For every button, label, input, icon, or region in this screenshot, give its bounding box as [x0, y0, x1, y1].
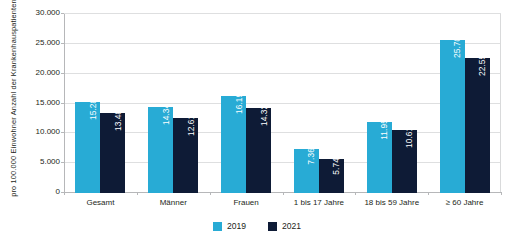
x-axis-label-1-bis-17-jahre: 1 bis 17 Jahre [283, 197, 356, 209]
y-tick: 5.000 [8, 158, 60, 166]
bar-2019-18-bis-59-jahre[interactable]: 11.958 [367, 122, 392, 193]
y-tick: 20.000 [8, 69, 60, 77]
y-tick-label: 20.000 [16, 69, 60, 77]
y-tick-label: 30.000 [16, 9, 60, 17]
x-axis-label-frauen: Frauen [210, 197, 283, 209]
bar-value-label: 12.613 [186, 118, 196, 136]
bar-2019-≥-60-jahre[interactable]: 25.709 [440, 40, 465, 193]
x-tick-mark [137, 192, 138, 195]
bar-value-label: 7.364 [306, 149, 316, 165]
bar-value-label: 14.340 [161, 107, 171, 125]
bar-value-label: 25.709 [452, 40, 462, 58]
y-tick-label: 10.000 [16, 128, 60, 136]
bar-value-label: 22.555 [477, 58, 487, 76]
y-tick-label: 0 [16, 188, 60, 196]
x-tick-mark [501, 192, 502, 195]
chart-legend: 20192021 [0, 222, 514, 231]
bar-value-label: 11.958 [379, 122, 389, 140]
x-tick-mark [64, 192, 65, 195]
bar-group: 25.70922.555 [440, 14, 490, 193]
bar-2019-männer[interactable]: 14.340 [148, 107, 173, 193]
y-tick-label: 15.000 [16, 99, 60, 107]
bar-group: 15.28013.481 [75, 14, 125, 193]
x-axis-label-männer: Männer [137, 197, 210, 209]
bar-2021-18-bis-59-jahre[interactable]: 10.616 [392, 130, 417, 193]
bar-group: 16.19614.325 [221, 14, 271, 193]
bar-group: 14.34012.613 [148, 14, 198, 193]
y-tick-label: 25.000 [16, 39, 60, 47]
bar-value-label: 14.325 [259, 108, 269, 126]
x-tick-mark [283, 192, 284, 195]
bar-value-label: 10.616 [404, 130, 414, 148]
bar-2019-gesamt[interactable]: 15.280 [75, 102, 100, 193]
bar-2019-1-bis-17-jahre[interactable]: 7.364 [294, 149, 319, 193]
y-tick: 25.000 [8, 39, 60, 47]
x-tick-mark [428, 192, 429, 195]
x-axis-label-gesamt: Gesamt [64, 197, 137, 209]
legend-label-2019: 2019 [227, 222, 246, 231]
legend-item-2021[interactable]: 2021 [268, 222, 301, 231]
bar-2021-gesamt[interactable]: 13.481 [100, 113, 125, 193]
bar-value-label: 16.196 [234, 96, 244, 114]
x-axis-label-≥-60-jahre: ≥ 60 Jahre [428, 197, 501, 209]
legend-swatch-2019 [213, 222, 222, 231]
bar-2021-frauen[interactable]: 14.325 [246, 108, 271, 193]
bar-value-label: 15.280 [88, 102, 98, 120]
x-axis-label-18-bis-59-jahre: 18 bis 59 Jahre [355, 197, 428, 209]
bar-group: 7.3645.748 [294, 14, 344, 193]
legend-label-2021: 2021 [282, 222, 301, 231]
x-tick-mark [210, 192, 211, 195]
y-tick: 15.000 [8, 99, 60, 107]
y-tick: 30.000 [8, 9, 60, 17]
y-tick: 10.000 [8, 128, 60, 136]
y-tick-label: 5.000 [16, 158, 60, 166]
bar-value-label: 5.748 [331, 159, 341, 175]
legend-swatch-2021 [268, 222, 277, 231]
x-tick-mark [355, 192, 356, 195]
y-tick: 0 [8, 188, 60, 196]
bar-2021-≥-60-jahre[interactable]: 22.555 [465, 58, 490, 193]
bars-layer: 15.28013.48114.34012.61316.19614.3257.36… [64, 14, 501, 193]
x-axis-labels: GesamtMännerFrauen1 bis 17 Jahre18 bis 5… [64, 197, 501, 213]
bar-2019-frauen[interactable]: 16.196 [221, 96, 246, 193]
bar-value-label: 13.481 [113, 113, 123, 131]
legend-item-2019[interactable]: 2019 [213, 222, 246, 231]
bar-2021-männer[interactable]: 12.613 [173, 118, 198, 193]
bar-group: 11.95810.616 [367, 14, 417, 193]
bar-chart: Anzahl der Krankenhauspatienten pro 100.… [0, 0, 514, 241]
bar-2021-1-bis-17-jahre[interactable]: 5.748 [319, 159, 344, 193]
